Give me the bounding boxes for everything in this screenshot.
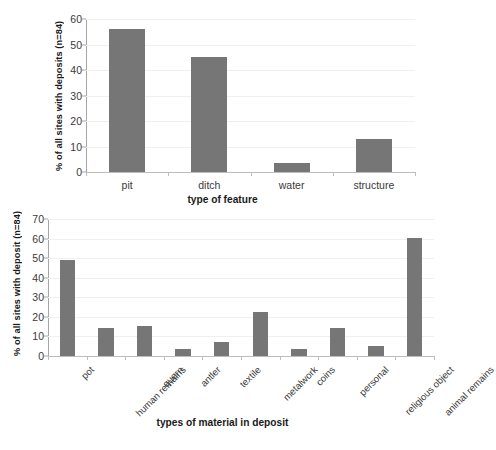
gridline <box>48 278 434 279</box>
y-axis-title-top: % of all sites with deposits (n=84) <box>54 19 64 172</box>
bar <box>191 57 227 172</box>
x-tick-mark <box>125 356 126 360</box>
bar <box>253 312 268 356</box>
x-tick-mark <box>86 172 87 176</box>
bar <box>407 238 422 356</box>
x-tick-mark <box>318 356 319 360</box>
x-category-label: pot <box>79 364 96 381</box>
x-tick-mark <box>168 172 169 176</box>
x-tick-mark <box>434 356 435 360</box>
y-tick-label: 10 <box>32 330 44 342</box>
gridline <box>86 19 415 20</box>
y-tick-label: 40 <box>70 64 82 76</box>
x-category-label: pit <box>122 179 133 191</box>
x-tick-mark <box>415 172 416 176</box>
y-tick-label: 60 <box>32 233 44 245</box>
y-tick-label: 60 <box>70 13 82 25</box>
bar <box>137 326 152 356</box>
gridline <box>48 297 434 298</box>
y-tick-label: 10 <box>70 141 82 153</box>
x-category-label: ditch <box>198 179 220 191</box>
bar <box>98 328 113 356</box>
bar <box>330 328 345 356</box>
bar <box>356 139 392 172</box>
y-tick-label: 30 <box>32 291 44 303</box>
y-tick-mark <box>44 316 48 317</box>
x-category-label: water <box>279 179 305 191</box>
y-tick-mark <box>44 336 48 337</box>
x-tick-mark <box>251 172 252 176</box>
x-axis-title-top: type of feature <box>0 194 445 205</box>
y-tick-label: 50 <box>70 39 82 51</box>
x-tick-mark <box>48 356 49 360</box>
x-category-label: coins <box>313 364 337 388</box>
y-tick-label: 20 <box>70 115 82 127</box>
y-tick-label: 0 <box>76 166 82 178</box>
x-category-label: personal <box>356 364 390 398</box>
bar <box>175 349 190 356</box>
y-tick-mark <box>82 146 86 147</box>
x-tick-mark <box>87 356 88 360</box>
bar <box>109 29 145 172</box>
gridline <box>48 219 434 220</box>
y-tick-label: 20 <box>32 311 44 323</box>
x-tick-mark <box>357 356 358 360</box>
x-tick-mark <box>280 356 281 360</box>
y-axis-title-bottom: % of all sites with deposit (n=84) <box>12 219 22 356</box>
y-tick-label: 40 <box>32 272 44 284</box>
plot-area-top: 0102030405060pitditchwaterstructure <box>86 19 415 172</box>
material-bar-chart: % of all sites with deposit (n=84) 01020… <box>0 205 445 450</box>
y-tick-mark <box>82 19 86 20</box>
y-tick-mark <box>44 277 48 278</box>
x-category-label: textile <box>237 364 263 390</box>
y-tick-label: 70 <box>32 213 44 225</box>
y-tick-label: 50 <box>32 252 44 264</box>
y-tick-mark <box>44 238 48 239</box>
bar <box>274 163 310 172</box>
gridline <box>48 239 434 240</box>
bar <box>291 349 306 356</box>
y-tick-label: 0 <box>38 350 44 362</box>
plot-area-bottom: 010203040506070pothuman remainsquernantl… <box>48 219 434 356</box>
y-tick-mark <box>82 70 86 71</box>
y-tick-mark <box>44 297 48 298</box>
x-tick-mark <box>164 356 165 360</box>
y-tick-mark <box>82 121 86 122</box>
x-tick-mark <box>395 356 396 360</box>
y-tick-mark <box>44 219 48 220</box>
bar <box>368 346 383 356</box>
feature-bar-chart: % of all sites with deposits (n=84) 0102… <box>0 0 445 205</box>
x-tick-mark <box>202 356 203 360</box>
bar <box>214 342 229 356</box>
y-tick-mark <box>44 258 48 259</box>
x-category-label: antler <box>198 364 223 389</box>
x-category-label: metalwork <box>281 364 320 403</box>
x-category-label: structure <box>353 179 394 191</box>
x-tick-mark <box>333 172 334 176</box>
x-tick-mark <box>241 356 242 360</box>
gridline <box>48 258 434 259</box>
x-axis-title-bottom: types of material in deposit <box>0 417 445 428</box>
bar <box>60 260 75 356</box>
y-tick-label: 30 <box>70 90 82 102</box>
y-tick-mark <box>82 44 86 45</box>
y-tick-mark <box>82 95 86 96</box>
gridline <box>48 317 434 318</box>
